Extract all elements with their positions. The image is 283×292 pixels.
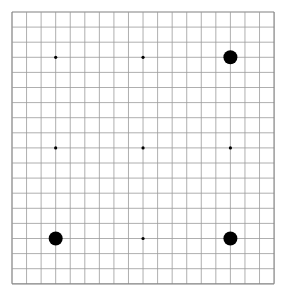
star-point: [229, 146, 232, 149]
star-point: [141, 237, 144, 240]
star-point: [54, 56, 57, 59]
black-stone[interactable]: [223, 50, 237, 64]
star-point: [141, 56, 144, 59]
star-point: [54, 146, 57, 149]
black-stone[interactable]: [49, 232, 63, 246]
go-board[interactable]: [0, 0, 283, 292]
black-stone[interactable]: [223, 232, 237, 246]
star-point: [141, 146, 144, 149]
